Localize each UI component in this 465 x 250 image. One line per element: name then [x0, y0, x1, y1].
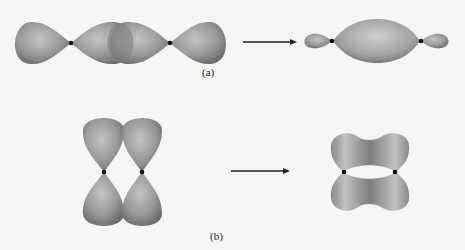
sigma-bond-orbital — [333, 19, 420, 63]
nucleus-dot — [69, 41, 74, 46]
back-lobe — [305, 34, 333, 48]
panel-a-after — [305, 19, 449, 63]
p-orbital-lobe — [122, 172, 162, 226]
nucleus-dot — [419, 39, 424, 44]
nucleus-dot — [330, 39, 335, 44]
overlap-region — [108, 23, 134, 63]
panel-b-after — [331, 133, 409, 210]
nucleus-dot — [140, 170, 145, 175]
arrow-icon — [231, 168, 290, 174]
orbital-diagram — [0, 0, 465, 250]
p-orbital-lobe — [122, 118, 162, 172]
panel-label-b: (b) — [210, 230, 223, 242]
panel-label-a: (a) — [202, 66, 214, 78]
p-orbital-lobe — [15, 22, 71, 64]
p-orbital-lobe — [83, 172, 124, 226]
back-lobe — [421, 34, 449, 48]
nucleus-dot — [393, 170, 398, 175]
p-orbital-lobe — [83, 118, 124, 172]
nucleus-dot — [342, 170, 347, 175]
p-orbital-lobe — [170, 22, 226, 64]
pi-bond-lower-lobe — [331, 172, 409, 211]
pi-bond-upper-lobe — [331, 133, 409, 172]
nucleus-dot — [168, 41, 173, 46]
panel-a-before — [15, 22, 226, 64]
panel-b-before — [83, 118, 162, 226]
arrow-icon — [243, 39, 297, 45]
nucleus-dot — [102, 170, 107, 175]
